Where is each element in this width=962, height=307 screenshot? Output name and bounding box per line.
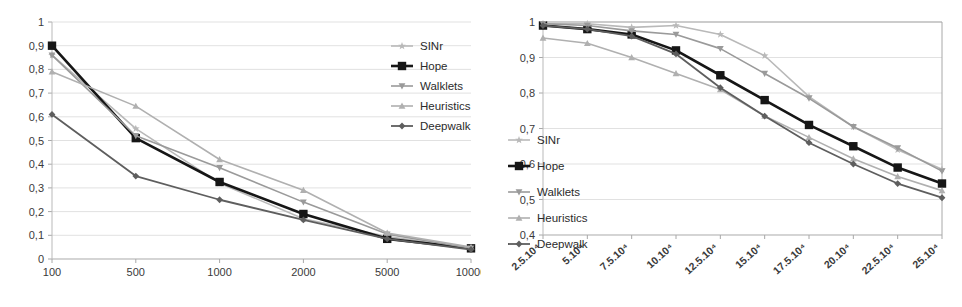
y-tick-label: 1 bbox=[38, 16, 44, 28]
legend-label-hope: Hope bbox=[537, 160, 565, 172]
series-line-hope bbox=[52, 46, 471, 249]
data-point-hope bbox=[716, 71, 724, 79]
x-tick-label: 10000 bbox=[456, 266, 481, 278]
legend-label-walklets: Walklets bbox=[420, 80, 463, 92]
y-tick-label: 0,1 bbox=[29, 229, 44, 241]
legend-label-sinr: SINr bbox=[537, 134, 560, 146]
y-tick-label: 0,2 bbox=[29, 206, 44, 218]
data-point-hope bbox=[48, 42, 56, 50]
data-point-hope bbox=[938, 179, 946, 187]
left-chart-svg: 00,10,20,30,40,50,60,70,80,9110050010002… bbox=[0, 0, 481, 307]
data-point-heuristics bbox=[216, 156, 223, 162]
legend-label-sinr: SINr bbox=[420, 40, 443, 52]
x-tick-label: 17.5.10⁴ bbox=[770, 241, 808, 277]
legend-marker-deepwalk bbox=[516, 241, 523, 248]
y-tick-label: 1 bbox=[529, 16, 535, 28]
y-tick-label: 0,8 bbox=[520, 87, 535, 99]
legend-marker-hope bbox=[398, 62, 406, 70]
data-point-deepwalk bbox=[216, 196, 223, 203]
y-tick-label: 0,5 bbox=[520, 194, 535, 206]
data-point-hope bbox=[805, 121, 813, 129]
series-line-heuristics bbox=[52, 72, 471, 247]
x-tick-label: 2000 bbox=[291, 266, 315, 278]
x-tick-label: 7.5.10⁴ bbox=[597, 241, 631, 273]
y-tick-label: 0,9 bbox=[29, 40, 44, 52]
data-point-walklets bbox=[717, 46, 724, 52]
right-chart-panel: 0,40,50,60,70,80,912.5.10⁴5.10⁴7.5.10⁴10… bbox=[481, 0, 962, 307]
legend-marker-hope bbox=[515, 162, 523, 170]
x-tick-label: 12.5.10⁴ bbox=[682, 241, 720, 277]
y-tick-label: 0,7 bbox=[29, 87, 44, 99]
figure-container: 00,10,20,30,40,50,60,70,80,9110050010002… bbox=[0, 0, 962, 307]
data-point-hope bbox=[760, 96, 768, 104]
x-tick-label: 500 bbox=[127, 266, 145, 278]
y-tick-label: 0,7 bbox=[520, 123, 535, 135]
series-line-walklets bbox=[52, 55, 471, 248]
data-point-deepwalk bbox=[939, 194, 946, 201]
data-point-deepwalk bbox=[850, 161, 857, 168]
series-line-hope bbox=[543, 26, 942, 184]
y-tick-label: 0,6 bbox=[29, 111, 44, 123]
series-line-sinr bbox=[543, 24, 942, 170]
data-point-hope bbox=[893, 163, 901, 171]
x-tick-label: 100 bbox=[43, 266, 61, 278]
legend-marker-sinr bbox=[398, 42, 406, 49]
left-chart-panel: 00,10,20,30,40,50,60,70,80,9110050010002… bbox=[0, 0, 481, 307]
data-point-hope bbox=[215, 178, 223, 186]
legend-label-hope: Hope bbox=[420, 60, 448, 72]
legend-label-heuristics: Heuristics bbox=[420, 100, 471, 112]
x-tick-label: 1000 bbox=[207, 266, 231, 278]
x-tick-label: 25.10⁴ bbox=[910, 241, 941, 271]
chart-legend: SINrHopeWalkletsHeuristicsDeepwalk bbox=[391, 40, 471, 132]
legend-label-walklets: Walklets bbox=[537, 186, 580, 198]
legend-label-heuristics: Heuristics bbox=[537, 212, 588, 224]
y-tick-label: 0,3 bbox=[29, 182, 44, 194]
x-tick-label: 10.10⁴ bbox=[644, 241, 675, 271]
y-tick-label: 0 bbox=[38, 253, 44, 265]
x-tick-label: 22.5.10⁴ bbox=[859, 241, 897, 277]
right-chart-svg: 0,40,50,60,70,80,912.5.10⁴5.10⁴7.5.10⁴10… bbox=[481, 0, 962, 307]
data-point-sinr bbox=[672, 22, 680, 29]
data-point-walklets bbox=[939, 168, 946, 174]
legend-marker-sinr bbox=[515, 136, 523, 143]
x-tick-label: 5000 bbox=[375, 266, 399, 278]
x-tick-label: 20.10⁴ bbox=[821, 241, 852, 271]
legend-label-deepwalk: Deepwalk bbox=[537, 238, 588, 250]
legend-label-deepwalk: Deepwalk bbox=[420, 120, 471, 132]
data-point-hope bbox=[849, 142, 857, 150]
data-point-deepwalk bbox=[894, 180, 901, 187]
y-tick-label: 0,9 bbox=[520, 52, 535, 64]
y-tick-label: 0,4 bbox=[29, 158, 44, 170]
legend-marker-deepwalk bbox=[399, 123, 406, 130]
data-point-walklets bbox=[761, 71, 768, 77]
y-tick-label: 0,8 bbox=[29, 63, 44, 75]
y-tick-label: 0,4 bbox=[520, 229, 535, 241]
series-line-deepwalk bbox=[52, 114, 471, 249]
x-tick-label: 15.10⁴ bbox=[733, 241, 764, 271]
series-line-deepwalk bbox=[543, 26, 942, 198]
series-line-sinr bbox=[52, 55, 471, 248]
y-tick-label: 0,5 bbox=[29, 135, 44, 147]
